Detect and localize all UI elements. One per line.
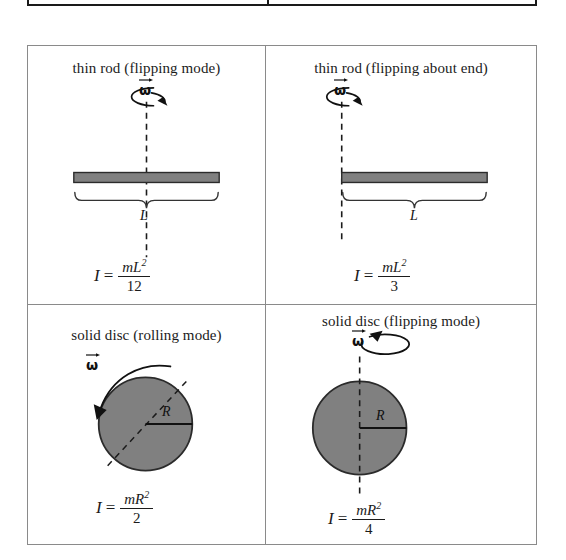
formula-denominator: 3 [387, 277, 403, 294]
table-cell-thin-rod-flipping-about-end: thin rod (flipping about end) L ω I = mL… [266, 46, 536, 305]
angular-velocity-label: ω [352, 333, 364, 349]
formula-denominator: 4 [361, 520, 377, 537]
angular-velocity-label: ω [334, 82, 346, 98]
formula-numerator: mL2 [378, 258, 410, 276]
numerator-base: mR [356, 502, 376, 518]
formula-numerator: mR2 [120, 490, 153, 508]
omega-arrowhead [353, 97, 363, 106]
truncated-table-column-divider [267, 0, 269, 4]
inertia-formula: I = mL2 12 [94, 258, 150, 294]
vector-arrow-overbar-icon [334, 77, 348, 83]
omega-arrowhead [157, 97, 167, 106]
formula-lhs: I [96, 498, 102, 518]
inertia-formula: I = mL2 3 [354, 258, 410, 294]
omega-rotation-arc [361, 334, 409, 354]
omega-symbol: ω [139, 82, 151, 98]
formula-denominator: 2 [129, 509, 145, 526]
angular-velocity-label: ω [86, 357, 98, 373]
vector-arrow-overbar-icon [139, 77, 153, 83]
numerator-base: mR [124, 491, 144, 507]
formula-equals: = [106, 498, 116, 518]
vector-arrow-overbar-icon [86, 352, 100, 358]
rod-body [342, 173, 487, 183]
numerator-exponent: 2 [401, 257, 406, 268]
formula-fraction: mR2 2 [120, 490, 153, 526]
omega-symbol: ω [86, 357, 98, 373]
omega-symbol: ω [334, 82, 346, 98]
numerator-exponent: 2 [376, 500, 381, 511]
formula-lhs: I [94, 266, 100, 286]
formula-equals: = [338, 509, 348, 529]
angular-velocity-label: ω [139, 82, 151, 98]
truncated-table-fragment [27, 0, 537, 6]
formula-equals: = [104, 266, 114, 286]
formula-fraction: mR2 4 [352, 501, 385, 537]
omega-symbol: ω [352, 333, 364, 349]
length-label: L [410, 208, 418, 224]
radius-label: R [162, 404, 171, 420]
formula-equals: = [364, 266, 374, 286]
inertia-formula: I = mR2 4 [328, 501, 385, 537]
numerator-exponent: 2 [144, 489, 149, 500]
vector-arrow-overbar-icon [352, 328, 366, 334]
formula-numerator: mR2 [352, 501, 385, 519]
formula-denominator: 12 [123, 277, 146, 294]
formula-numerator: mL2 [118, 258, 150, 276]
moment-of-inertia-table: thin rod (flipping mode) L ω I = [27, 45, 537, 545]
numerator-exponent: 2 [141, 257, 146, 268]
radius-label: R [376, 408, 385, 424]
formula-lhs: I [328, 509, 334, 529]
rod-body [74, 173, 219, 183]
formula-fraction: mL2 12 [118, 258, 150, 294]
inertia-formula: I = mR2 2 [96, 490, 153, 526]
numerator-base: mL [382, 259, 401, 275]
table-cell-thin-rod-flipping-mode: thin rod (flipping mode) L ω I = [28, 46, 266, 305]
formula-fraction: mL2 3 [378, 258, 410, 294]
formula-lhs: I [354, 266, 360, 286]
numerator-base: mL [122, 259, 141, 275]
table-cell-solid-disc-rolling-mode: solid disc (rolling mode) R ω I = mR2 [28, 305, 266, 544]
length-brace [343, 192, 486, 208]
length-label: L [140, 208, 148, 224]
solid-disc-vertical-axis-diagram [266, 305, 536, 544]
table-cell-solid-disc-flipping-mode: solid disc (flipping mode) R ω I = mR2 [266, 305, 536, 544]
